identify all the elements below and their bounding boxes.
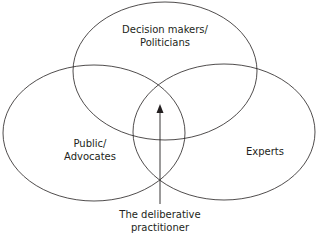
label-deliberative-practitioner: The deliberative practitioner bbox=[110, 208, 210, 234]
label-line: Politicians bbox=[115, 36, 215, 49]
arrow-head-icon bbox=[157, 104, 164, 113]
label-line: Decision makers/ bbox=[115, 23, 215, 36]
label-line: The deliberative bbox=[110, 208, 210, 221]
label-line: practitioner bbox=[110, 221, 210, 234]
label-line: Advocates bbox=[50, 150, 130, 163]
label-public-advocates: Public/ Advocates bbox=[50, 137, 130, 163]
label-line: Public/ bbox=[50, 137, 130, 150]
label-experts: Experts bbox=[235, 145, 295, 158]
label-line: Experts bbox=[235, 145, 295, 158]
label-decision-makers: Decision makers/ Politicians bbox=[115, 23, 215, 49]
